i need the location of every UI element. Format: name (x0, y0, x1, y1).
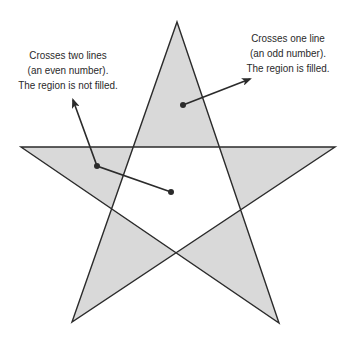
label-odd-crossings: Crosses one line (an odd number). The re… (246, 31, 329, 76)
dot-even (168, 189, 174, 195)
dot-even (94, 163, 100, 169)
label-odd-line-1: Crosses one line (246, 31, 329, 46)
dot-odd (180, 102, 186, 108)
label-even-line-1: Crosses two lines (18, 48, 118, 63)
label-odd-line-2: (an odd number). (246, 46, 329, 61)
label-odd-line-3: The region is filled. (246, 61, 329, 76)
label-even-line-2: (an even number). (18, 63, 118, 78)
label-even-line-3: The region is not filled. (18, 78, 118, 93)
label-even-crossings: Crosses two lines (an even number). The … (18, 48, 118, 93)
diagram-canvas: Crosses two lines (an even number). The … (0, 0, 353, 339)
